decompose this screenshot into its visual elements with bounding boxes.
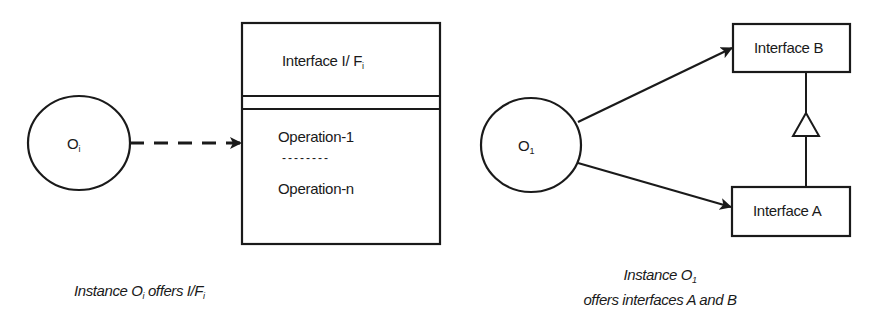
interface-title-sub: i [362, 61, 364, 71]
instance-o1-label: O1 [518, 138, 534, 156]
interface-a-label: Interface A [753, 203, 821, 218]
right-caption-prefix: Instance O [623, 266, 692, 283]
operation-1-label: Operation-1 [278, 129, 354, 144]
generalization-triangle-icon [793, 113, 819, 136]
left-caption-sub2: i [203, 291, 205, 301]
instance-oi-base: O [67, 135, 78, 152]
right-caption-sub: 1 [692, 275, 697, 285]
operation-n-label: Operation-n [278, 181, 354, 196]
left-caption: Instance Oi offers I/Fi [74, 281, 205, 306]
right-caption-line2: offers interfaces A and B [560, 290, 760, 310]
left-caption-middle: offers I/F [144, 282, 203, 299]
instance-oi-label: Oi [67, 136, 80, 154]
interface-b-label: Interface B [754, 40, 823, 55]
interface-ifi-title: Interface I/ Fi [282, 53, 364, 71]
operation-ellipsis: -------- [282, 152, 330, 164]
interface-title-base: Interface I/ F [282, 52, 362, 69]
instance-oi-sub: i [78, 144, 80, 154]
right-caption: Instance O1 offers interfaces A and B [560, 265, 760, 310]
arrow-to-interface-b [578, 48, 732, 122]
right-caption-line1: Instance O1 [560, 265, 760, 290]
instance-o1-sub: 1 [529, 146, 534, 156]
instance-o1-base: O [518, 137, 529, 154]
arrow-to-interface-a [578, 163, 731, 207]
left-caption-prefix: Instance O [74, 282, 143, 299]
